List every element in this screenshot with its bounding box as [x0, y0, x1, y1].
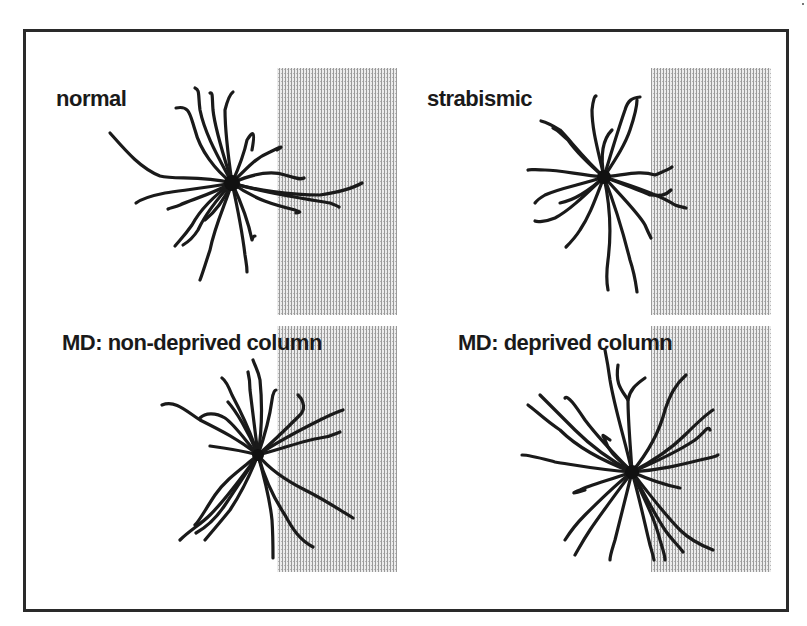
panel-label-strabismic: strabismic [427, 86, 532, 112]
scan-artifact-mark [802, 3, 804, 5]
panel-label-md-deprived: MD: deprived column [458, 330, 672, 356]
panel-label-normal: normal [56, 86, 126, 112]
panel-label-md-non-deprived: MD: non-deprived column [62, 330, 322, 356]
figure-canvas: normal strabismic MD: non-deprived colum… [0, 0, 807, 626]
